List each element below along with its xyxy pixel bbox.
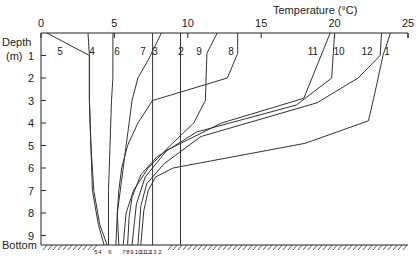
curve-label: 6 xyxy=(114,46,120,57)
bottom-hatch xyxy=(43,245,47,250)
bottom-hatch xyxy=(73,245,77,250)
bottom-hatch xyxy=(203,245,207,250)
bottom-hatch xyxy=(223,245,227,250)
y-tick-label: 1 xyxy=(28,50,34,62)
bottom-label: Bottom xyxy=(2,239,37,251)
bottom-hatch xyxy=(338,245,342,250)
y-tick-label: 5 xyxy=(28,140,34,152)
bottom-hatch xyxy=(298,245,302,250)
bottom-curve-tag: 6 xyxy=(108,249,112,255)
curve-label: 10 xyxy=(333,46,345,57)
bottom-hatch xyxy=(288,245,292,250)
bottom-hatch xyxy=(393,245,397,250)
curve-label: 4 xyxy=(89,46,95,57)
bottom-hatch xyxy=(48,245,52,250)
curve-label: 3 xyxy=(152,46,158,57)
bottom-hatch xyxy=(178,245,182,250)
axes: 0510152025123456789 xyxy=(28,17,414,250)
y-tick-label: 3 xyxy=(28,95,34,107)
bottom-hatch xyxy=(363,245,367,250)
bottom-hatch xyxy=(283,245,287,250)
bottom-hatch xyxy=(383,245,387,250)
y-tick-label: 6 xyxy=(28,162,34,174)
bottom-curve-tag: 3 xyxy=(153,249,157,255)
bottom-hatch xyxy=(233,245,237,250)
chart-canvas: 0510152025123456789 54673298111012154678… xyxy=(0,0,416,256)
bottom-hatch xyxy=(243,245,247,250)
bottom-curve-tag: 2 xyxy=(158,249,162,255)
curve-label: 7 xyxy=(140,46,146,57)
temperature-profiles xyxy=(47,33,391,245)
bottom-hatch xyxy=(268,245,272,250)
x-tick-label: 25 xyxy=(402,17,414,29)
bottom-hatch xyxy=(218,245,222,250)
bottom-hatch xyxy=(308,245,312,250)
bottom-hatch xyxy=(183,245,187,250)
bottom-hatch xyxy=(358,245,362,250)
bottom-hatch xyxy=(353,245,357,250)
bottom-hatch xyxy=(198,245,202,250)
curve-label: 8 xyxy=(228,46,234,57)
y-axis-title-line2: (m) xyxy=(6,50,23,62)
bottom-hatch xyxy=(278,245,282,250)
bottom-hatch xyxy=(68,245,72,250)
curve-labels: 546732981110121546789101112132 xyxy=(57,46,390,255)
bottom-hatch xyxy=(313,245,317,250)
bottom-hatch xyxy=(253,245,257,250)
bottom-hatch xyxy=(293,245,297,250)
bottom-curve-tag: 4 xyxy=(98,249,102,255)
bottom-hatch xyxy=(303,245,307,250)
bottom-hatch xyxy=(403,245,407,250)
bottom-hatch xyxy=(263,245,267,250)
x-tick-label: 5 xyxy=(111,17,117,29)
profile-curve-12 xyxy=(138,33,382,245)
profile-curve-10 xyxy=(128,33,335,245)
bottom-hatch xyxy=(88,245,92,250)
profile-curve-6 xyxy=(109,33,113,245)
y-tick-label: 4 xyxy=(28,117,34,129)
curve-label: 2 xyxy=(178,46,184,57)
y-tick-label: 2 xyxy=(28,72,34,84)
x-axis-title: Temperature (°C) xyxy=(273,4,357,16)
bottom-hatch xyxy=(373,245,377,250)
bottom-hatch xyxy=(173,245,177,250)
bottom-hatch xyxy=(343,245,347,250)
bottom-hatch xyxy=(78,245,82,250)
bottom-hatch xyxy=(368,245,372,250)
bottom-hatch xyxy=(188,245,192,250)
bottom-hatch xyxy=(238,245,242,250)
profile-curve-11 xyxy=(132,33,330,245)
curve-label: 1 xyxy=(384,46,390,57)
bottom-hatch xyxy=(388,245,392,250)
temperature-depth-chart: 0510152025123456789 54673298111012154678… xyxy=(0,0,416,256)
curve-label: 9 xyxy=(196,46,202,57)
bottom-hatch xyxy=(318,245,322,250)
bottom-hatch xyxy=(248,245,252,250)
bottom-hatch xyxy=(378,245,382,250)
bottom-hatch xyxy=(348,245,352,250)
bottom-hatch xyxy=(328,245,332,250)
curve-label: 5 xyxy=(57,46,63,57)
bottom-hatch xyxy=(273,245,277,250)
profile-curve-3 xyxy=(116,33,161,245)
y-axis-title-line1: Depth xyxy=(2,36,31,48)
x-tick-label: 0 xyxy=(38,17,44,29)
bottom-hatch xyxy=(228,245,232,250)
bottom-hatch xyxy=(398,245,402,250)
x-tick-label: 20 xyxy=(328,17,340,29)
bottom-hatch xyxy=(53,245,57,250)
x-tick-label: 15 xyxy=(255,17,267,29)
bottom-hatch xyxy=(193,245,197,250)
x-tick-label: 10 xyxy=(182,17,194,29)
curve-label: 11 xyxy=(308,46,319,57)
profile-curve-9 xyxy=(123,33,217,245)
curve-label: 12 xyxy=(361,46,373,57)
y-tick-label: 8 xyxy=(28,207,34,219)
bottom-hatch xyxy=(168,245,172,250)
profile-curve-1 xyxy=(141,33,391,245)
bottom-hatch xyxy=(58,245,62,250)
bottom-hatch xyxy=(208,245,212,250)
y-tick-label: 7 xyxy=(28,185,34,197)
bottom-hatch xyxy=(323,245,327,250)
bottom-hatch xyxy=(83,245,87,250)
